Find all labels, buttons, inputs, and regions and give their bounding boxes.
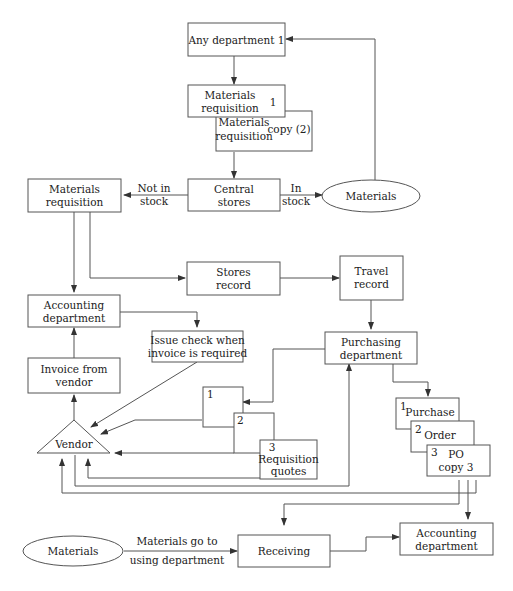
svg-text:Central: Central [214,183,255,195]
procurement-flowchart: Any department 1 Materials requisition c… [0,0,513,591]
node-receiving: Receiving [238,535,330,567]
node-invoice-from-vendor: Invoice from vendor [28,358,120,393]
svg-text:Requisition: Requisition [258,453,319,465]
svg-text:Any department 1: Any department 1 [188,34,285,46]
svg-text:Vendor: Vendor [54,438,94,450]
node-issue-check: Issue check when invoice is required [148,331,248,362]
node-any-department: Any department 1 [188,23,285,56]
svg-text:Materials: Materials [219,116,270,128]
node-materials-top: Materials [322,180,420,212]
svg-text:using department: using department [130,554,225,566]
node-travel-record: Travel record [340,256,403,300]
svg-text:Materials: Materials [346,190,397,202]
svg-text:1: 1 [207,388,214,400]
svg-text:copy (2): copy (2) [267,123,310,135]
edge-label-in-stock: In stock [282,182,311,207]
node-accounting-department-bottom: Accounting department [400,523,493,555]
node-accounting-department-top: Accounting department [28,295,120,327]
svg-text:In: In [291,182,302,194]
svg-text:1: 1 [270,96,277,108]
svg-text:2: 2 [415,423,422,435]
svg-text:Issue check when: Issue check when [150,334,245,346]
svg-text:Purchase: Purchase [405,406,454,418]
svg-text:Receiving: Receiving [258,545,311,557]
svg-text:department: department [415,540,478,552]
node-central-stores: Central stores [188,179,280,211]
svg-text:Purchasing: Purchasing [341,336,401,348]
svg-text:requisition: requisition [201,102,259,114]
svg-text:vendor: vendor [55,376,94,388]
svg-text:quotes: quotes [271,465,307,477]
svg-text:Travel: Travel [355,265,389,277]
svg-text:Accounting: Accounting [43,299,105,311]
svg-text:Not in: Not in [137,182,170,194]
svg-text:Accounting: Accounting [415,527,477,539]
svg-text:Materials go to: Materials go to [136,535,217,547]
svg-text:Invoice from: Invoice from [40,363,107,375]
node-stores-record: Stores record [187,262,280,295]
node-materials-bottom: Materials [23,536,123,566]
svg-text:Order: Order [424,429,457,441]
svg-text:Materials: Materials [48,545,99,557]
svg-text:2: 2 [237,414,244,426]
svg-text:department: department [340,349,403,361]
svg-text:copy 3: copy 3 [439,461,474,473]
svg-text:requisition: requisition [215,130,273,142]
svg-text:stock: stock [282,195,311,207]
node-purchasing-department: Purchasing department [325,332,417,364]
node-vendor: Vendor [37,420,110,453]
svg-text:record: record [216,279,251,291]
svg-text:Materials: Materials [205,89,256,101]
svg-text:record: record [354,278,389,290]
edge-label-not-in-stock: Not in stock [137,182,170,207]
svg-text:stores: stores [218,196,251,208]
svg-text:Materials: Materials [49,183,100,195]
svg-text:3: 3 [269,441,276,453]
svg-text:invoice is required: invoice is required [148,347,248,359]
node-materials-requisition-1: Materials requisition 1 [188,85,285,117]
svg-text:stock: stock [140,195,169,207]
node-purchase-order-3: 3 PO copy 3 [427,445,490,476]
svg-text:requisition: requisition [46,196,104,208]
svg-text:PO: PO [448,448,464,460]
svg-text:Stores: Stores [216,266,250,278]
node-materials-requisition-left: Materials requisition [28,179,121,212]
node-requisition-quote-3: 3 Requisition quotes [258,440,319,479]
svg-text:3: 3 [431,446,438,458]
svg-text:department: department [43,312,106,324]
